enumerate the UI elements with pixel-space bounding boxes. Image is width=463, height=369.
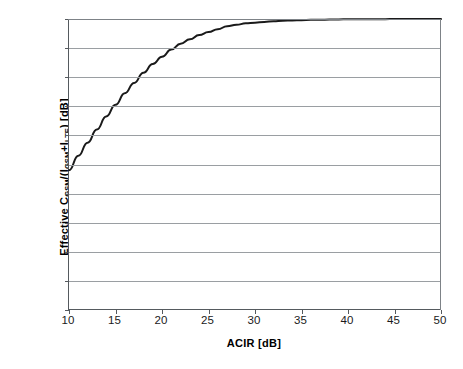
y-axis-tick-mark [65,223,69,224]
y-axis-tick-mark [65,48,69,49]
x-axis-tick-label: 10 [51,315,85,327]
x-axis-tick-label: 30 [237,315,271,327]
x-axis-tick-label: 25 [191,315,225,327]
gridline-horizontal [69,281,441,282]
gridline-horizontal [69,194,441,195]
chart-container: Effective CGSM/(IGSM+ILTE) [dB] ACIR [dB… [0,0,463,369]
y-axis-tick-mark [65,135,69,136]
plot-frame-top [68,19,440,20]
x-axis-tick-label: 20 [144,315,178,327]
x-axis-tick-label: 45 [377,315,411,327]
y-axis-tick-mark [65,194,69,195]
y-axis-tick-mark [65,281,69,282]
gridline-horizontal [69,48,441,49]
gridline-horizontal [69,135,441,136]
plot-area [68,19,440,310]
gridline-horizontal [69,77,441,78]
x-axis-tick-label: 15 [98,315,132,327]
x-axis-title: ACIR [dB] [68,337,440,349]
y-axis-tick-mark [65,252,69,253]
y-axis-tick-mark [65,165,69,166]
gridline-horizontal [69,106,441,107]
y-axis-tick-mark [65,106,69,107]
y-axis-tick-mark [65,77,69,78]
gridline-horizontal [69,165,441,166]
x-axis-tick-label: 35 [284,315,318,327]
series-path [69,19,441,170]
x-axis-tick-label: 50 [423,315,457,327]
plot-frame-right [440,19,441,310]
gridline-horizontal [69,252,441,253]
x-axis-tick-label: 40 [330,315,364,327]
gridline-horizontal [69,223,441,224]
